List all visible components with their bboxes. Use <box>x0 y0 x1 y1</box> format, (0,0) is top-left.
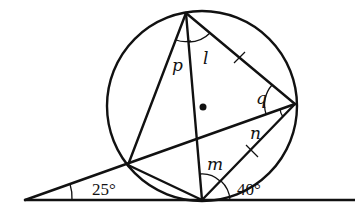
angle-arc-l <box>189 33 210 42</box>
label-angle-40: 40° <box>237 180 261 199</box>
circle-theorem-diagram: p l q n m 25° 40° <box>0 0 355 216</box>
label-p: p <box>172 55 183 75</box>
label-m: m <box>207 154 223 174</box>
angle-arc-n <box>280 109 283 117</box>
label-q: q <box>256 88 267 108</box>
label-angle-25: 25° <box>92 180 116 199</box>
angle-arc-25 <box>70 184 72 200</box>
geometry-figure: p l q n m 25° 40° <box>0 0 355 216</box>
label-l: l <box>203 48 208 68</box>
label-n: n <box>250 123 261 143</box>
angle-arc-m <box>200 174 220 181</box>
center-dot <box>200 104 207 111</box>
